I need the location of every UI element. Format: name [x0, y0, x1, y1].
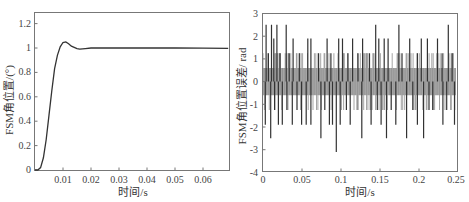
- left-xtick: 0.01: [54, 174, 72, 185]
- left-xtick: 0.03: [110, 174, 128, 185]
- left-ytick: 0.2: [19, 140, 32, 151]
- left-ytick: 0.8: [19, 66, 32, 77]
- left-ytick: 1: [26, 42, 31, 53]
- left-xtick: 0.02: [82, 174, 100, 185]
- right-xtick: 0.05: [293, 174, 311, 185]
- left-ytick: 0.4: [19, 115, 32, 126]
- right-ytick: -2: [250, 122, 258, 133]
- error-signal: [263, 25, 456, 152]
- right-xtick: 0.1: [335, 174, 348, 185]
- right-x-axis-label: 时间/s: [345, 186, 374, 198]
- right-ytick: -4: [250, 167, 258, 178]
- left-ytick: 1.2: [19, 18, 32, 29]
- left-xtick: 0.04: [138, 174, 156, 185]
- right-xtick: 0: [261, 174, 266, 185]
- left-chart: 0 0.2 0.4 0.6 0.8 1 1.2 0.01 0.02 0.03 0…: [2, 13, 230, 199]
- right-y-axis-label: FSM角位置误差/ rad: [235, 47, 248, 144]
- right-ytick: -1: [250, 99, 258, 110]
- left-y-axis-label: FSM角位置/(°): [2, 65, 16, 135]
- right-ytick: 0: [253, 76, 258, 87]
- left-plot-frame: [35, 13, 230, 171]
- left-x-axis-label: 时间/s: [118, 186, 147, 198]
- right-x-axis: 0 0.05 0.1 0.15 0.2 0.25: [261, 169, 465, 186]
- right-xtick: 0.25: [447, 174, 465, 185]
- right-ytick: -3: [250, 144, 258, 155]
- right-ytick: 1: [253, 53, 258, 64]
- left-xtick: 0.05: [166, 174, 184, 185]
- right-chart: 3 2 1 0 -1 -2 -3 -4 0 0.05 0.1 0.15 0.2 …: [235, 8, 465, 198]
- right-xtick: 0.2: [413, 174, 426, 185]
- step-response-line: [35, 42, 228, 170]
- figure: 0 0.2 0.4 0.6 0.8 1 1.2 0.01 0.02 0.03 0…: [0, 0, 469, 202]
- right-xtick: 0.15: [371, 174, 389, 185]
- left-xtick: 0.06: [194, 174, 212, 185]
- right-ytick: 3: [253, 8, 258, 19]
- left-ytick: 0.6: [19, 91, 32, 102]
- left-ytick: 0: [26, 164, 31, 175]
- right-ytick: 2: [253, 31, 258, 42]
